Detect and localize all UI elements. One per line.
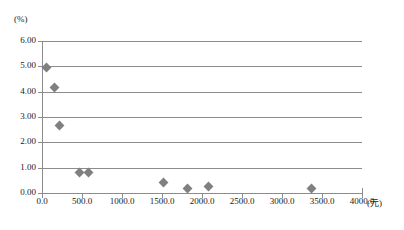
y-axis-tick-label: 2.00 [4,136,36,146]
x-axis-tick-label: 1500.0 [140,196,184,206]
x-axis-tick-label: 1000.0 [100,196,144,206]
y-axis-tick [38,168,42,169]
gridline-horizontal [42,66,362,67]
y-axis-tick-label: 6.00 [4,35,36,45]
x-axis-tick-label: 2500.0 [220,196,264,206]
gridline-horizontal [42,92,362,93]
y-axis-tick [38,92,42,93]
gridline-horizontal [42,142,362,143]
x-axis-tick-label: 3000.0 [260,196,304,206]
x-axis-tick-label: 2000.0 [180,196,224,206]
y-axis-tick [38,117,42,118]
scatter-chart: (%) (元) 0.001.002.003.004.005.006.00 0.0… [0,0,404,230]
x-axis-tick-label: 0.0 [20,196,64,206]
y-axis-unit-label: (%) [14,14,28,24]
y-axis-tick-label: 4.00 [4,86,36,96]
x-axis-tick-label: 3500.0 [300,196,344,206]
y-axis-tick-label: 5.00 [4,60,36,70]
gridline-horizontal [42,41,362,42]
y-axis-tick [38,41,42,42]
gridline-horizontal [42,117,362,118]
y-axis-tick-label: 1.00 [4,162,36,172]
x-axis-tick-label: 500.0 [60,196,104,206]
y-axis-tick-label: 3.00 [4,111,36,121]
y-axis-tick [38,142,42,143]
x-axis-tick-label: 4000.0 [340,196,384,206]
